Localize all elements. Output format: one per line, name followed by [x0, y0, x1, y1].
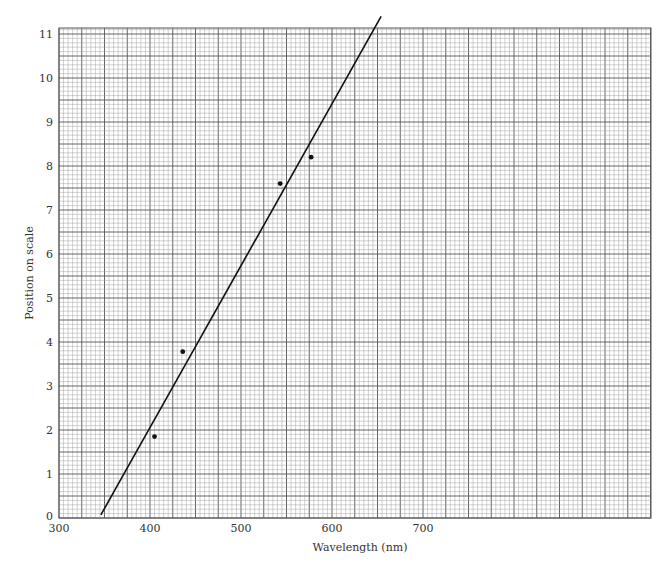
data-points: [152, 155, 313, 439]
x-axis-label: Wavelength (nm): [313, 541, 408, 554]
data-point: [152, 434, 157, 439]
y-tick-label: 3: [46, 380, 53, 393]
x-axis-ticks: 300400500600700: [49, 522, 434, 535]
y-tick-label: 0: [46, 510, 53, 523]
y-tick-label: 10: [39, 72, 53, 85]
graph-paper-grid: [59, 28, 651, 518]
y-tick-label: 11: [39, 28, 53, 41]
y-tick-label: 8: [46, 160, 53, 173]
x-tick-label: 400: [140, 522, 161, 535]
y-axis-ticks: 01234567891011: [39, 28, 53, 523]
y-tick-label: 1: [46, 468, 53, 481]
y-tick-label: 2: [46, 424, 53, 437]
y-tick-label: 5: [46, 292, 53, 305]
y-axis-label: Position on scale: [23, 226, 36, 319]
y-tick-label: 4: [46, 336, 53, 349]
x-tick-label: 300: [49, 522, 70, 535]
x-tick-label: 700: [413, 522, 434, 535]
data-point: [180, 349, 185, 354]
chart: 300400500600700 01234567891011 Wavelengt…: [0, 0, 666, 571]
data-point: [309, 155, 314, 160]
x-tick-label: 600: [322, 522, 343, 535]
y-tick-label: 9: [46, 116, 53, 129]
y-tick-label: 7: [46, 204, 53, 217]
y-tick-label: 6: [46, 248, 53, 261]
data-point: [278, 181, 283, 186]
x-tick-label: 500: [231, 522, 252, 535]
